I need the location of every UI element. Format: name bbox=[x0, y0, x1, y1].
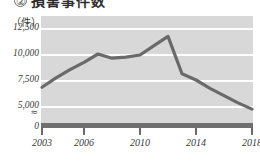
line-series-svg bbox=[41, 14, 253, 128]
x-tick-mark-2006 bbox=[83, 128, 84, 135]
title-label: 損害事件数 bbox=[31, 0, 106, 9]
baseline-band bbox=[41, 123, 253, 128]
chart-figure: ② 損害事件数 （件） 12,50010,0007,5005,0000≈ 200… bbox=[0, 0, 260, 168]
x-tick-label-2006: 2006 bbox=[74, 137, 94, 148]
y-tick-label-12500: 12,500 bbox=[1, 22, 39, 32]
y-tick-label-10000: 10,000 bbox=[1, 48, 39, 58]
x-tick-mark-2018 bbox=[251, 128, 252, 135]
y-axis-break-icon: ≈ bbox=[30, 108, 38, 117]
plot-area bbox=[41, 14, 253, 128]
x-tick-mark-2014 bbox=[195, 128, 196, 135]
x-tick-label-2018: 2018 bbox=[242, 137, 260, 148]
y-tick-label-0: 0 bbox=[1, 121, 39, 131]
y-tick-label-7500: 7,500 bbox=[1, 74, 39, 84]
x-tick-mark-2010 bbox=[139, 128, 140, 135]
data-line-damage-cases bbox=[42, 36, 252, 109]
x-tick-label-2003: 2003 bbox=[32, 137, 52, 148]
x-tick-label-2010: 2010 bbox=[130, 137, 150, 148]
x-tick-mark-2003 bbox=[41, 128, 42, 135]
x-tick-label-2014: 2014 bbox=[186, 137, 206, 148]
